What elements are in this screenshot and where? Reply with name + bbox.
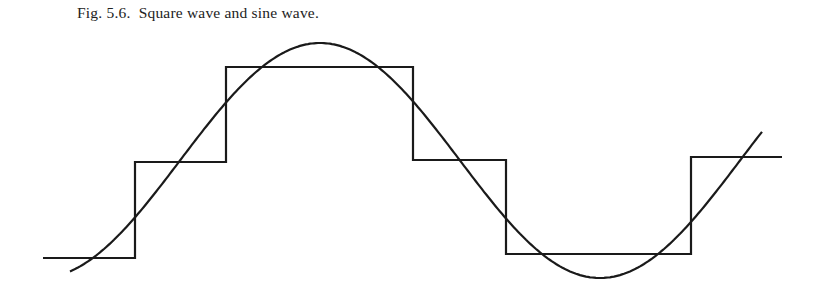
square-wave-line bbox=[43, 67, 782, 258]
waveform-plot bbox=[0, 0, 818, 304]
